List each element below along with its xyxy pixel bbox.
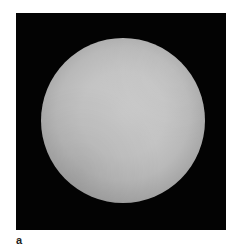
sphere-image: [41, 38, 205, 203]
panel-label: a: [16, 234, 22, 246]
figure-panel: [16, 13, 226, 230]
